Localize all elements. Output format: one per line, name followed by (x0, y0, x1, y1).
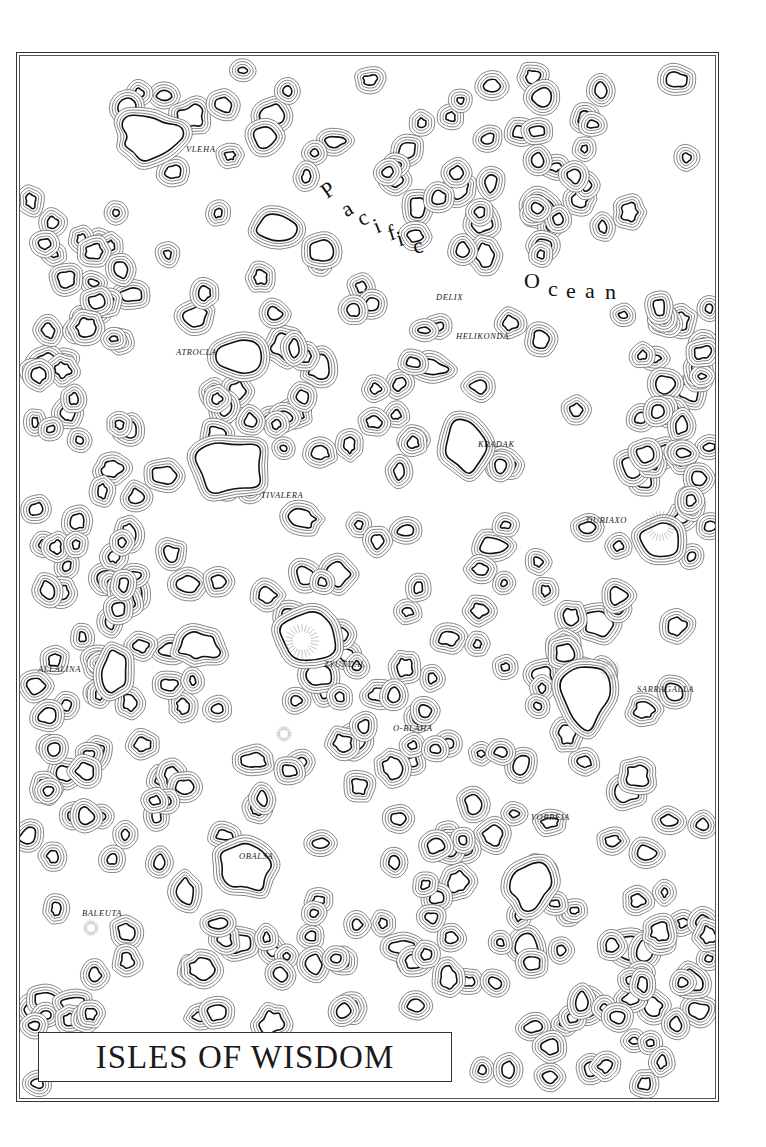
island (688, 810, 716, 839)
island (77, 1000, 106, 1028)
label-sarragalla: SARRAGALLA (637, 684, 694, 694)
island (70, 798, 103, 833)
island (206, 200, 231, 226)
island (613, 194, 647, 231)
island (232, 744, 274, 776)
island (199, 996, 235, 1029)
island (167, 567, 208, 601)
island (643, 396, 673, 427)
label-allalina: ALLALINA (38, 664, 81, 674)
island (322, 946, 350, 972)
label-vorreia: VORREIA (531, 812, 570, 822)
island (561, 395, 591, 425)
island (280, 500, 325, 536)
volcano-crater-icon (276, 726, 291, 741)
island (30, 699, 65, 732)
island (389, 516, 422, 544)
island (658, 63, 696, 95)
island (61, 384, 87, 413)
island (380, 847, 408, 878)
island (326, 683, 352, 710)
island (21, 494, 52, 523)
island (125, 728, 159, 760)
island (586, 73, 615, 107)
island (399, 732, 425, 758)
island (144, 458, 185, 493)
label-dubiaxo: DUBIAXO (586, 515, 627, 525)
island (610, 303, 636, 327)
island (259, 298, 291, 328)
island (141, 787, 169, 813)
island (523, 144, 552, 176)
island (77, 235, 111, 267)
island (98, 845, 125, 873)
island (110, 569, 136, 601)
island (303, 437, 338, 468)
island (206, 89, 240, 121)
island (354, 67, 386, 94)
island (645, 291, 673, 324)
island (113, 820, 138, 849)
ocean-letter: O (524, 268, 540, 294)
island (105, 253, 136, 286)
island (344, 770, 376, 802)
island (674, 144, 700, 171)
island (441, 157, 472, 188)
label-atrocla: ATROCLA (176, 347, 217, 357)
island (525, 548, 552, 575)
map-canvas (19, 55, 716, 1099)
island (20, 185, 44, 217)
island (525, 322, 558, 357)
island (212, 835, 280, 899)
island (167, 869, 201, 913)
island (410, 696, 440, 726)
island (405, 573, 431, 602)
island (548, 937, 574, 964)
island (590, 212, 616, 242)
island (488, 930, 512, 954)
island (601, 1003, 633, 1033)
island (409, 109, 434, 136)
island (20, 670, 54, 703)
label-o-blaha: O-BLAHA (393, 723, 433, 733)
island (521, 118, 553, 145)
island (422, 736, 450, 762)
island (492, 571, 515, 595)
island (462, 595, 497, 627)
ocean-letter: c (548, 276, 558, 302)
island (190, 277, 219, 309)
island (344, 910, 372, 938)
label-vleha: VLEHA (186, 144, 215, 154)
island (338, 295, 368, 325)
island (697, 295, 716, 321)
island (248, 206, 305, 250)
island (430, 623, 468, 655)
island (501, 801, 528, 826)
island (465, 631, 491, 656)
island (398, 349, 429, 375)
island (64, 531, 88, 558)
label-delix: DELIX (436, 292, 463, 302)
island (370, 910, 396, 937)
label-kradak: KRADAK (478, 439, 515, 449)
island (623, 885, 655, 916)
island (385, 454, 413, 489)
island (450, 827, 475, 853)
island (473, 125, 502, 152)
island (461, 371, 496, 402)
label-tivalera: TIVALERA (261, 490, 303, 500)
island (597, 827, 630, 855)
island (304, 830, 338, 857)
island (382, 804, 414, 833)
island (145, 846, 173, 878)
island (187, 435, 268, 501)
island (67, 428, 92, 453)
label-zyundal: ZYUNDAL (324, 659, 366, 669)
island (480, 969, 510, 997)
map-title-cartouche: ISLES OF WISDOM (38, 1032, 452, 1082)
island (399, 991, 433, 1021)
island (38, 417, 63, 441)
island (112, 944, 143, 977)
island (652, 879, 676, 906)
island (49, 263, 83, 297)
